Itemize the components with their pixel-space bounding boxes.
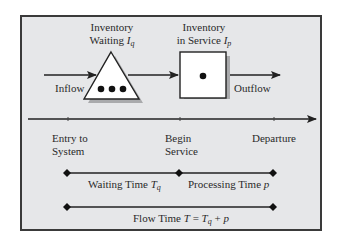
event-departure-label: Departure: [252, 132, 296, 145]
queue-label-line2: Waiting Iq: [82, 34, 142, 50]
event-entry-label: Entry to System: [52, 132, 88, 158]
diamond-marker: [269, 203, 277, 211]
diamond-marker: [63, 203, 71, 211]
service-unit-dot: [200, 73, 207, 80]
waiting-time-label: Waiting Time Tq: [88, 178, 161, 194]
diamond-marker: [269, 169, 277, 177]
diagram-graphics: [0, 0, 341, 245]
server-label-line1: Inventory: [172, 21, 236, 34]
diamond-marker: [175, 169, 183, 177]
queue-label: Inventory Waiting Iq: [82, 21, 142, 50]
inflow-label: Inflow: [55, 82, 84, 95]
processing-time-label: Processing Time p: [188, 178, 269, 191]
server-label: Inventory in Service Ip: [172, 21, 236, 50]
waiting-unit-dot: [98, 86, 105, 93]
outflow-label: Outflow: [234, 82, 271, 95]
server-label-line2: in Service Ip: [172, 34, 236, 50]
flow-time-label: Flow Time T = Tq + p: [133, 212, 229, 228]
waiting-unit-dot: [109, 86, 116, 93]
waiting-unit-dot: [120, 86, 127, 93]
event-begin-service-label: Begin Service: [165, 132, 198, 158]
queue-label-line1: Inventory: [82, 21, 142, 34]
diamond-marker: [63, 169, 71, 177]
